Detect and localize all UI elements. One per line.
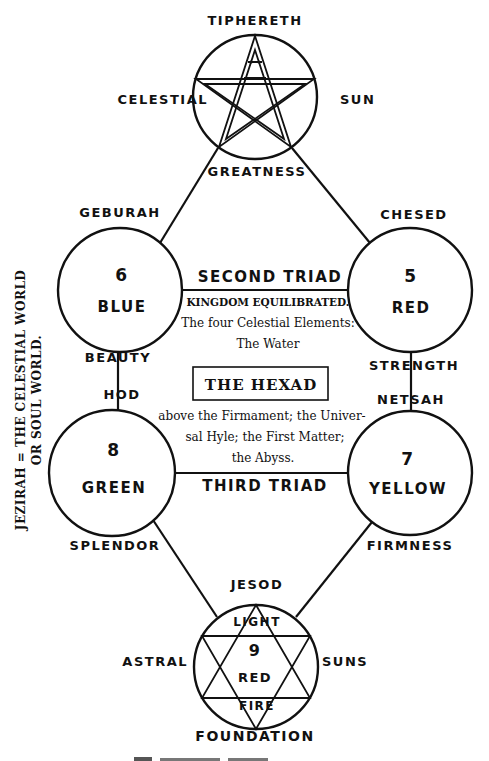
label-celestial: CELESTIAL	[118, 92, 209, 107]
line-tiphereth-chesed	[292, 148, 370, 243]
line-tiphereth-geburah	[160, 148, 218, 243]
cut-off-caption-fragment	[134, 757, 268, 761]
caption-soul-world: OR SOUL WORLD.	[30, 335, 44, 465]
label-sun: SUN	[340, 92, 375, 107]
label-fire: FIRE	[239, 699, 275, 713]
tiphereth-circle	[193, 35, 317, 159]
text-the-hexad: THE HEXAD	[205, 376, 317, 394]
text-kingdom-equilibrated: KINGDOM EQUILIBRATED.	[186, 296, 349, 309]
node-color-yellow: YELLOW	[368, 480, 447, 498]
node-color-blue: BLUE	[98, 298, 147, 316]
label-strength: STRENGTH	[369, 358, 459, 373]
label-geburah: GEBURAH	[79, 205, 160, 220]
node-number-6: 6	[115, 265, 128, 285]
label-light: LIGHT	[233, 615, 281, 629]
node-number-5: 5	[404, 266, 417, 286]
line-hod-jesod	[153, 520, 217, 617]
label-suns: SUNS	[322, 654, 368, 669]
label-chesed: CHESED	[380, 207, 447, 222]
label-third-triad: THIRD TRIAD	[202, 477, 328, 495]
label-firmness: FIRMNESS	[367, 538, 454, 553]
text-the-water: The Water	[237, 337, 300, 351]
label-astral: ASTRAL	[122, 654, 188, 669]
label-foundation: FOUNDATION	[195, 728, 314, 744]
geburah-circle	[58, 228, 182, 352]
label-tiphereth: TIPHERETH	[207, 13, 302, 28]
node-color-red-bottom: RED	[238, 670, 272, 685]
node-number-8: 8	[107, 440, 120, 460]
pentagram-icon	[196, 36, 314, 147]
label-jesod: JESOD	[230, 577, 283, 592]
netsah-circle	[348, 411, 472, 535]
node-number-7: 7	[401, 449, 414, 469]
vertical-caption: JEZIRAH = THE CELESTIAL WORLD OR SOUL WO…	[14, 270, 44, 531]
text-above-firmament: above the Firmament; the Univer-	[158, 409, 365, 423]
hod-circle	[49, 410, 175, 536]
text-the-abyss: the Abyss.	[232, 451, 295, 465]
label-beauty: BEAUTY	[85, 350, 151, 365]
text-universal-hyle: sal Hyle; the First Matter;	[185, 430, 344, 444]
hexad-diagram: TIPHERETH CELESTIAL SUN GREATNESS GEBURA…	[0, 0, 489, 761]
chesed-circle	[348, 228, 472, 352]
text-celestial-elements: The four Celestial Elements:	[181, 316, 354, 330]
label-splendor: SPLENDOR	[70, 538, 161, 553]
label-greatness: GREATNESS	[208, 164, 307, 179]
node-color-green: GREEN	[82, 479, 146, 497]
node-number-9: 9	[249, 641, 262, 660]
label-hod: HOD	[103, 387, 140, 402]
label-netsah: NETSAH	[377, 392, 445, 407]
top-node-tiphereth	[193, 35, 317, 159]
line-netsah-jesod	[296, 522, 372, 617]
caption-jezirah: JEZIRAH = THE CELESTIAL WORLD	[14, 270, 28, 531]
label-second-triad: SECOND TRIAD	[198, 268, 342, 286]
node-color-red: RED	[392, 299, 431, 317]
